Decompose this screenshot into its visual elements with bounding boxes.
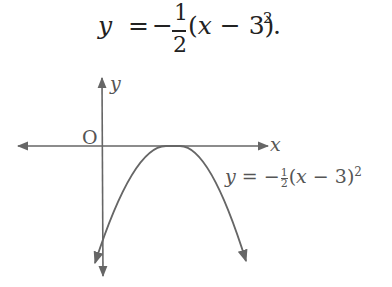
y-axis-label: y <box>110 72 121 94</box>
curve-label-fraction: 12 <box>281 168 288 189</box>
origin-label: O <box>82 126 98 148</box>
y-axis <box>102 78 103 276</box>
parabola-graph <box>0 0 392 287</box>
x-axis-label: x <box>270 133 281 155</box>
curve-label: y = −12(x − 3)2 <box>225 165 362 189</box>
parabola-curve <box>95 146 246 263</box>
